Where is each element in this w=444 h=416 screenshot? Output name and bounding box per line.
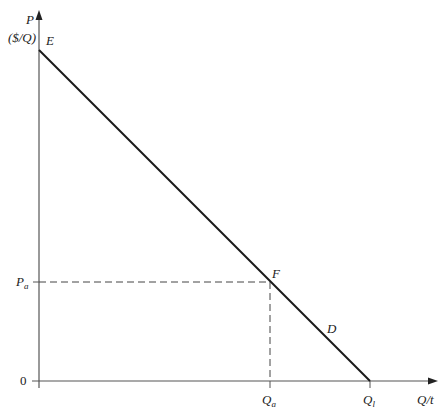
point-e-label: E bbox=[45, 33, 54, 48]
demand-diagram: P ($/Q) E F D Pa 0 Qa Ql Q/t bbox=[0, 0, 444, 416]
point-f-label: F bbox=[271, 266, 281, 281]
origin-label: 0 bbox=[20, 373, 27, 388]
ql-label: Ql bbox=[363, 392, 375, 409]
x-axis-arrow-icon bbox=[428, 378, 438, 385]
qa-label: Qa bbox=[262, 392, 276, 409]
y-axis-arrow-icon bbox=[36, 10, 43, 20]
curve-d-label: D bbox=[326, 321, 337, 336]
pa-label: Pa bbox=[15, 274, 29, 291]
y-axis-label: P bbox=[25, 12, 34, 27]
demand-curve bbox=[39, 50, 370, 381]
x-axis-label: Q/t bbox=[417, 392, 434, 407]
y-axis-unit: ($/Q) bbox=[8, 30, 36, 45]
